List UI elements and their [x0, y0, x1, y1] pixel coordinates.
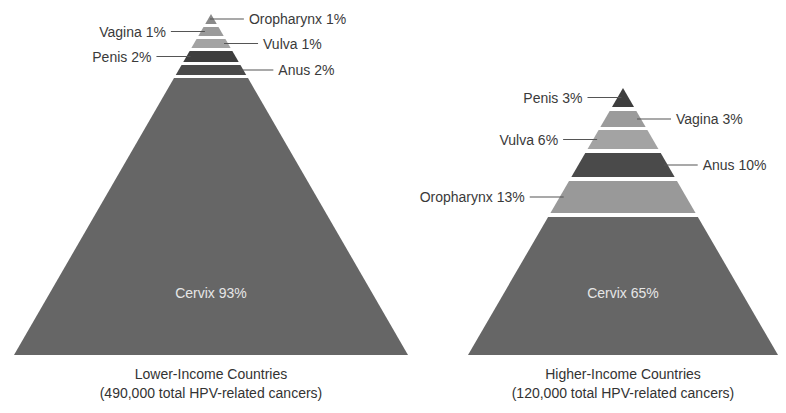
label-cervix: Cervix 93% [175, 285, 247, 301]
lower-income-caption-subtitle: (490,000 total HPV-related cancers) [100, 385, 323, 401]
lower-income-caption-title: Lower-Income Countries [135, 366, 288, 382]
band-penis [183, 51, 238, 62]
label-anus: Anus 2% [278, 62, 334, 78]
band-anus [571, 153, 674, 177]
hpv-cancer-pyramid-figure: Oropharynx 1%Vagina 1%Vulva 1%Penis 2%An… [0, 0, 786, 413]
label-oropharynx: Oropharynx 13% [420, 189, 525, 205]
label-anus: Anus 10% [703, 157, 767, 173]
label-cervix: Cervix 65% [587, 285, 659, 301]
higher-income-caption-title: Higher-Income Countries [545, 366, 701, 382]
label-penis: Penis 2% [92, 49, 151, 65]
label-vulva: Vulva 6% [499, 132, 558, 148]
label-penis: Penis 3% [523, 90, 582, 106]
higher-income-pyramid: Penis 3%Vagina 3%Vulva 6%Anus 10%Orophar… [420, 88, 778, 355]
label-vagina: Vagina 1% [99, 24, 166, 40]
lower-income-pyramid: Oropharynx 1%Vagina 1%Vulva 1%Penis 2%An… [14, 11, 408, 355]
label-oropharynx: Oropharynx 1% [249, 11, 346, 27]
higher-income-caption-subtitle: (120,000 total HPV-related cancers) [512, 385, 735, 401]
band-vulva [588, 130, 659, 149]
band-cervix [14, 78, 408, 355]
band-anus [176, 65, 246, 75]
label-vagina: Vagina 3% [676, 111, 743, 127]
label-vulva: Vulva 1% [263, 36, 322, 52]
band-oropharynx [550, 181, 695, 213]
